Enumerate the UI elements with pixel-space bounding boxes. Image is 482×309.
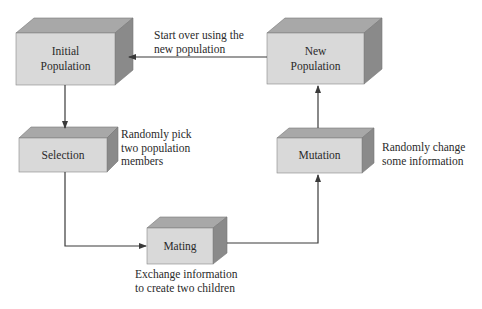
arrow-mating-to-mutation	[227, 175, 318, 243]
new-population-label: New Population	[267, 33, 364, 84]
selection-label: Selection	[19, 138, 107, 172]
initial-population-label: Initial Population	[16, 33, 115, 85]
arrow-selection-to-mating	[65, 172, 146, 246]
selection-note: Randomly pick two population members	[121, 128, 192, 169]
mutation-label: Mutation	[277, 138, 362, 173]
start-over-note: Start over using the new population	[154, 29, 244, 56]
mating-label: Mating	[147, 228, 213, 264]
mutation-note: Randomly change some information	[382, 141, 465, 168]
mating-note: Exchange information to create two child…	[135, 268, 238, 295]
